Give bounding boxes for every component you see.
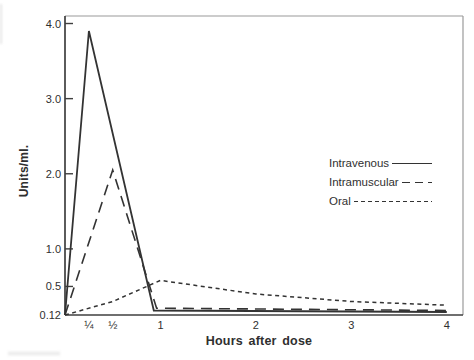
x-tick-label: ¼	[84, 320, 93, 331]
legend-label: Intramuscular	[329, 177, 399, 189]
legend-item-intramuscular: Intramuscular	[329, 173, 432, 192]
print-artifact	[0, 4, 2, 44]
x-axis-title: Hours after dose	[206, 334, 313, 348]
legend-line-sample-solid	[392, 163, 432, 165]
x-tick-label: 3	[348, 320, 354, 331]
x-tick-label: 2	[253, 320, 259, 331]
figure: Units/ml. Hours after dose 0.12 0.5 1.0 …	[0, 0, 474, 360]
legend-line-sample-long-dash	[402, 182, 432, 184]
legend-label: Oral	[329, 196, 351, 208]
legend-item-intravenous: Intravenous	[329, 154, 432, 173]
y-tick-label: 4.0	[19, 18, 61, 29]
y-tick-label: 0.12	[19, 310, 61, 321]
y-tick-label: 3.0	[19, 93, 61, 104]
x-tick-label: 4	[444, 320, 450, 331]
legend-item-oral: Oral	[329, 192, 432, 211]
legend: Intravenous Intramuscular Oral	[329, 154, 432, 211]
y-tick-label: 0.5	[19, 281, 61, 292]
x-tick-label: 1	[157, 320, 163, 331]
legend-label: Intravenous	[329, 158, 389, 170]
y-tick-label: 2.0	[19, 168, 61, 179]
x-tick-label: ½	[108, 320, 117, 331]
y-tick-label: 1.0	[19, 243, 61, 254]
legend-line-sample-short-dash	[354, 201, 432, 203]
print-artifact	[8, 352, 60, 355]
